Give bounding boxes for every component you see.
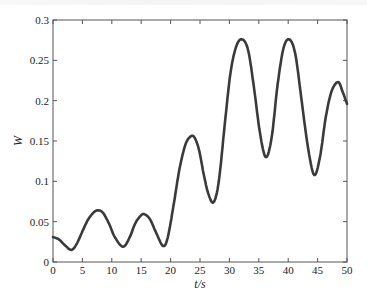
- x-tick-label: 40: [283, 264, 295, 276]
- y-axis-label: W: [11, 135, 25, 146]
- x-tick-label: 45: [312, 264, 324, 276]
- y-tick-label: 0.3: [35, 14, 49, 26]
- y-tick-label: 0: [44, 256, 50, 268]
- x-tick-label: 0: [50, 264, 56, 276]
- x-tick-label: 5: [80, 264, 86, 276]
- line-chart: 05101520253035404550 00.050.10.150.20.25…: [0, 0, 367, 300]
- y-tick-label: 0.1: [35, 175, 49, 187]
- x-axis-label: t/s: [194, 277, 206, 291]
- x-tick-label: 25: [195, 264, 207, 276]
- x-tick-label: 10: [106, 264, 118, 276]
- plot-frame: [53, 20, 347, 262]
- y-tick-label: 0.15: [30, 135, 50, 147]
- x-tick-label: 35: [253, 264, 265, 276]
- y-tick-label: 0.25: [30, 54, 50, 66]
- y-tick-label: 0.05: [30, 216, 50, 228]
- x-tick-label: 20: [165, 264, 177, 276]
- x-tick-label: 30: [224, 264, 236, 276]
- series-w-line: [53, 39, 347, 250]
- x-tick-label: 50: [342, 264, 354, 276]
- y-tick-label: 0.2: [35, 95, 49, 107]
- x-tick-label: 15: [136, 264, 148, 276]
